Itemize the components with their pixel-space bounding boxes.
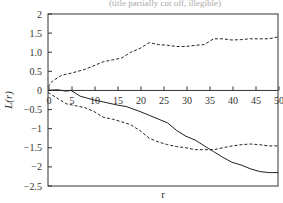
- y-tick-label: −1: [31, 123, 42, 134]
- x-tick-label: 20: [136, 95, 146, 106]
- x-tick-label: 30: [182, 95, 192, 106]
- x-axis-label: r: [161, 188, 165, 200]
- y-tick-label: 2: [37, 9, 42, 20]
- x-tick-label: 0: [47, 95, 52, 106]
- y-tick-label: −2: [31, 161, 42, 172]
- y-tick-label: −1.5: [24, 142, 42, 153]
- y-tick-label: 1.5: [30, 28, 43, 39]
- chart-svg: (title partially cut off, illegible) 21.…: [0, 0, 283, 203]
- y-tick-label: 1.0: [30, 47, 43, 58]
- x-tick-label: 40: [228, 95, 238, 106]
- y-tick-label: 0: [37, 85, 42, 96]
- x-tick-label: 45: [251, 95, 261, 106]
- x-tick-label: 25: [159, 95, 169, 106]
- x-tick-label: 50: [274, 95, 283, 106]
- y-axis-label: L(r): [2, 91, 15, 110]
- series-line-upper-envelope: [48, 37, 278, 87]
- y-tick-label: −0.5: [24, 104, 42, 115]
- y-tick-label: −2.5: [24, 181, 42, 192]
- y-tick-label: 0.5: [30, 66, 43, 77]
- x-tick-label: 35: [205, 95, 215, 106]
- chart-title: (title partially cut off, illegible): [109, 0, 221, 8]
